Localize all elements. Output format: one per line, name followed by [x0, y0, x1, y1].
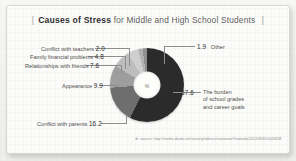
slice-label-burden-value: 57.6	[181, 89, 194, 96]
slice-label-friends: Relationships with friends 7.6	[25, 62, 99, 70]
slice-label-parents-text: Conflict with parents	[37, 121, 87, 127]
title-strong: Causes of Stress	[38, 15, 111, 25]
source-text: source: http://media.daum.net/society/ot…	[140, 137, 281, 141]
slice-label-family-value: 4.8	[95, 53, 104, 60]
slice-label-appearance-value: 9.9	[94, 82, 103, 89]
slice-label-burden: 57.6 The burden of school grades and car…	[203, 89, 281, 111]
slice-label-parents: Conflict with parents 16.2	[37, 120, 102, 128]
slice-label-teachers-text: Conflict with teachers	[41, 46, 94, 52]
slice-label-other: 1.9 Other	[197, 43, 225, 51]
title-bracket-right: |	[262, 15, 264, 25]
slice-label-friends-value: 7.6	[90, 62, 99, 69]
leader-line-other	[164, 46, 195, 47]
donut-ring: %	[110, 48, 184, 122]
slice-label-other-text: Other	[211, 44, 225, 50]
infographic-card: |Causes of Stress for Middle and High Sc…	[6, 5, 290, 154]
screenshot-root: |Causes of Stress for Middle and High Sc…	[0, 0, 296, 161]
source-marker: ※	[135, 137, 138, 141]
percent-symbol: %	[145, 82, 149, 88]
leader-line-friends-vertical	[121, 65, 122, 74]
leader-line-parents	[101, 123, 127, 124]
donut-hole: %	[134, 72, 161, 99]
slice-label-teachers-value: 2.0	[96, 45, 105, 52]
slice-label-other-value: 1.9	[197, 43, 206, 50]
donut-chart: % Conflict with teachers 2.0 Family fi	[7, 6, 289, 153]
leader-line-teachers-vertical	[129, 48, 130, 66]
slice-label-family: Family financial problems 4.8	[30, 53, 104, 61]
title-bracket-left: |	[32, 15, 34, 25]
slice-label-appearance-text: Appearance	[62, 83, 92, 89]
slice-label-burden-line3: and career goals	[203, 104, 245, 110]
slice-label-family-text: Family financial problems	[30, 54, 93, 60]
leader-line-other-vertical	[164, 46, 165, 64]
slice-label-burden-line2: of school grades	[203, 96, 244, 102]
slice-label-parents-value: 16.2	[89, 120, 102, 127]
slice-label-teachers: Conflict with teachers 2.0	[41, 45, 105, 53]
source-note: ※source: http://media.daum.net/society/o…	[135, 137, 281, 141]
leader-line-parents-vertical	[126, 114, 127, 123]
slice-label-burden-line1: The burden	[203, 89, 232, 95]
leader-line-family-vertical	[125, 56, 126, 69]
chart-title: |Causes of Stress for Middle and High Sc…	[7, 15, 289, 26]
slice-label-appearance: Appearance 9.9	[62, 82, 103, 90]
title-rest: for Middle and High School Students	[114, 15, 256, 25]
slice-label-friends-text: Relationships with friends	[25, 63, 88, 69]
